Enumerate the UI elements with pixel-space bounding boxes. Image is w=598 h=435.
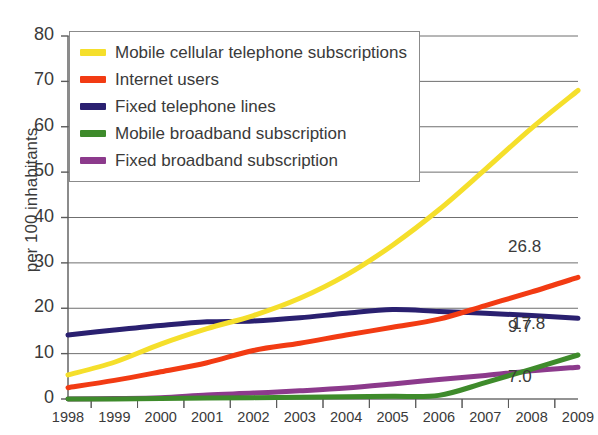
legend-color-swatch-icon xyxy=(80,157,106,164)
x-tick-label-2006: 2006 xyxy=(416,409,462,425)
y-tick-label-10: 10 xyxy=(20,342,54,363)
series-internet-users xyxy=(68,277,578,387)
series-end-label-7.0: 7.0 xyxy=(508,367,532,387)
series-end-label-9.7: 9.7 xyxy=(508,317,532,337)
y-tick-label-30: 30 xyxy=(20,251,54,272)
y-tick-label-60: 60 xyxy=(20,115,54,136)
legend-item-label: Fixed broadband subscription xyxy=(115,151,338,171)
x-tick-label-2007: 2007 xyxy=(462,409,508,425)
series-line xyxy=(68,277,578,387)
legend-item-label: Fixed telephone lines xyxy=(115,97,276,117)
legend-color-swatch-icon xyxy=(80,103,106,110)
series-line xyxy=(68,310,578,335)
series-line xyxy=(68,367,578,399)
legend-item-4[interactable]: Fixed broadband subscription xyxy=(80,147,419,174)
y-tick-label-50: 50 xyxy=(20,160,54,181)
series-fixed-broadband-subscription xyxy=(68,367,578,399)
legend-item-2[interactable]: Fixed telephone lines xyxy=(80,93,419,120)
x-tick-label-2002: 2002 xyxy=(230,409,276,425)
x-tick-label-2000: 2000 xyxy=(138,409,184,425)
x-tick-label-2003: 2003 xyxy=(277,409,323,425)
chart-legend: Mobile cellular telephone subscriptionsI… xyxy=(69,31,420,182)
x-tick-label-1998: 1998 xyxy=(45,409,91,425)
x-tick-label-1999: 1999 xyxy=(91,409,137,425)
y-tick-label-70: 70 xyxy=(20,69,54,90)
y-tick-label-80: 80 xyxy=(20,24,54,45)
legend-item-1[interactable]: Internet users xyxy=(80,66,419,93)
y-tick-label-0: 0 xyxy=(20,387,54,408)
legend-item-label: Internet users xyxy=(115,70,219,90)
x-tick-label-2005: 2005 xyxy=(370,409,416,425)
legend-item-0[interactable]: Mobile cellular telephone subscriptions xyxy=(80,39,419,66)
legend-item-3[interactable]: Mobile broadband subscription xyxy=(80,120,419,147)
x-tick-label-2004: 2004 xyxy=(323,409,369,425)
series-end-label-26.8: 26.8 xyxy=(508,237,541,257)
legend-color-swatch-icon xyxy=(80,76,106,83)
legend-item-label: Mobile cellular telephone subscriptions xyxy=(115,43,407,63)
x-tick-label-2008: 2008 xyxy=(509,409,555,425)
y-tick-label-40: 40 xyxy=(20,206,54,227)
legend-color-swatch-icon xyxy=(80,130,106,137)
legend-item-label: Mobile broadband subscription xyxy=(115,124,347,144)
y-tick-label-20: 20 xyxy=(20,296,54,317)
x-tick-label-2001: 2001 xyxy=(184,409,230,425)
x-tick-label-2009: 2009 xyxy=(555,409,598,425)
series-fixed-telephone-lines xyxy=(68,310,578,335)
legend-color-swatch-icon xyxy=(80,49,106,56)
